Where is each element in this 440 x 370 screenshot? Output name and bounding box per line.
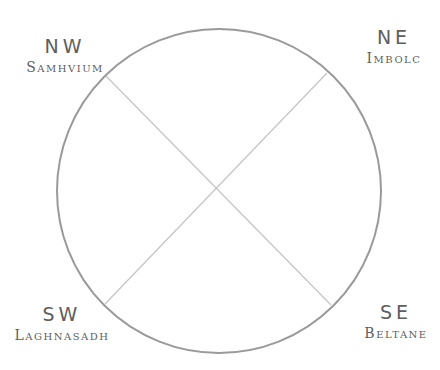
direction-nw: NW [20, 37, 110, 56]
festival-lughnasadh: Laghnasadh [12, 328, 112, 342]
quadrant-label-sw: SW Laghnasadh [12, 305, 112, 342]
festival-imbolc: Imbolc [352, 51, 436, 65]
quadrant-label-nw: NW Samhvium [20, 37, 110, 74]
festival-beltane: Beltane [354, 326, 438, 340]
diagonal-ne-sw [105, 73, 327, 304]
festival-samhain: Samhvium [20, 60, 110, 74]
direction-se: SE [354, 303, 438, 322]
diagonal-nw-se [106, 76, 331, 305]
quadrant-label-se: SE Beltane [354, 303, 438, 340]
direction-ne: NE [352, 28, 436, 47]
quadrant-label-ne: NE Imbolc [352, 28, 436, 65]
direction-sw: SW [12, 305, 112, 324]
